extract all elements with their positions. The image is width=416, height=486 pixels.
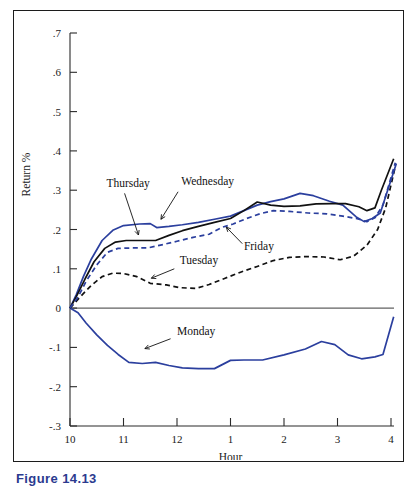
- y-tick-label: .1: [53, 263, 61, 275]
- x-tick-label: 2: [281, 433, 287, 445]
- x-tick-label: 10: [65, 433, 77, 445]
- series-label-wednesday: Wednesday: [181, 175, 234, 188]
- y-tick-label: .5: [53, 106, 62, 118]
- series-label-leader-monday: [145, 339, 171, 349]
- figure-caption: Figure 14.13: [16, 472, 316, 486]
- y-tick-label: -.3: [49, 420, 61, 432]
- series-label-leader-wednesday: [161, 192, 178, 220]
- x-tick-label: 12: [172, 433, 183, 445]
- x-axis-title: Hour: [219, 451, 243, 460]
- series-label-thursday: Thursday: [106, 177, 150, 190]
- y-tick-label: .2: [53, 224, 61, 236]
- x-tick-label: 11: [118, 433, 129, 445]
- y-tick-label: -.1: [49, 341, 61, 353]
- series-line-monday: [70, 308, 394, 369]
- y-axis-title: Return %: [20, 152, 32, 196]
- series-label-friday: Friday: [244, 240, 274, 253]
- x-tick-label: 1: [228, 433, 234, 445]
- y-tick-label: .6: [53, 66, 62, 78]
- x-tick-label: 4: [388, 433, 394, 445]
- series-label-leader-friday: [226, 227, 242, 244]
- x-tick-label: 3: [335, 433, 341, 445]
- y-tick-label: .4: [53, 145, 62, 157]
- series-label-tuesday: Tuesday: [180, 254, 219, 267]
- y-tick-label: -.2: [49, 381, 61, 393]
- series-label-leader-tuesday: [151, 269, 174, 278]
- figure-container: .7.6.5.4.3.2.10-.1-.2-.31011121234HourRe…: [0, 0, 416, 486]
- y-tick-label: 0: [56, 302, 62, 314]
- series-label-monday: Monday: [177, 325, 216, 338]
- series-label-leader-thursday: [125, 193, 139, 235]
- y-tick-label: .7: [53, 27, 62, 39]
- y-tick-label: .3: [53, 184, 62, 196]
- chart-frame: .7.6.5.4.3.2.10-.1-.2-.31011121234HourRe…: [13, 10, 404, 462]
- return-by-hour-line-chart: .7.6.5.4.3.2.10-.1-.2-.31011121234HourRe…: [14, 11, 402, 460]
